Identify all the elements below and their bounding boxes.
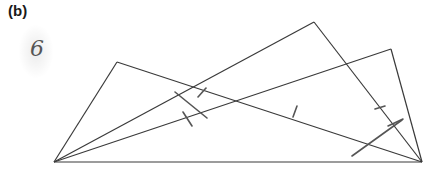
- segment-DB: [117, 62, 422, 162]
- tick-mark: [352, 120, 402, 156]
- segment-AC: [54, 22, 314, 162]
- triangle-diagram: [0, 0, 446, 181]
- tick-mark: [175, 92, 207, 118]
- tick-mark: [293, 106, 297, 117]
- segment-EB: [391, 49, 422, 162]
- tick-mark: [375, 106, 385, 109]
- segment-AD: [54, 62, 117, 162]
- segment-CB: [314, 22, 422, 162]
- segment-AE: [54, 49, 391, 162]
- tick-mark: [183, 112, 192, 126]
